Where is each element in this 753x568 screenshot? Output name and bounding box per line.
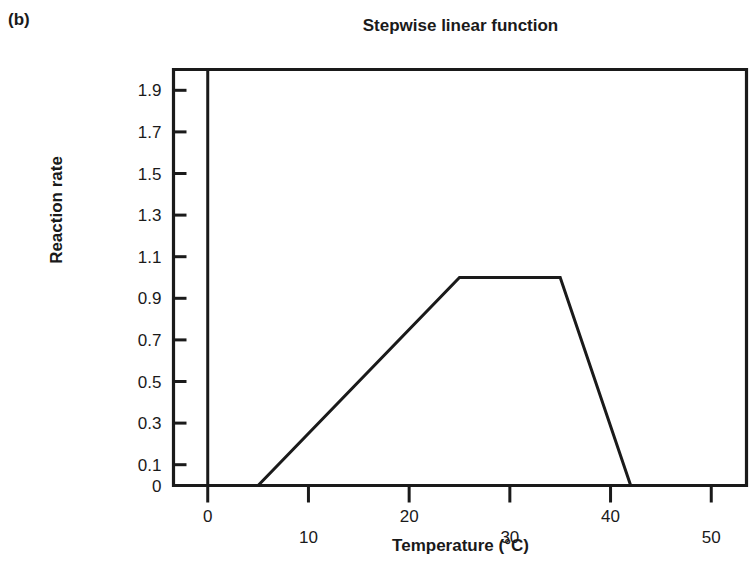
x-tick-label: 30 [500,528,519,547]
y-tick-label: 0 [152,477,161,496]
x-tick-label: 10 [299,528,318,547]
y-axis-tick-labels: 00.10.30.50.70.91.11.31.51.71.9 [138,81,162,495]
x-tick-label: 20 [400,507,419,526]
x-tick-label: 40 [601,507,620,526]
y-tick-label: 0.7 [138,331,162,350]
y-tick-label: 1.1 [138,248,162,267]
y-tick-label: 1.3 [138,206,162,225]
x-axis-tick-labels: 01020304050 [203,507,721,547]
x-tick-label: 0 [203,507,212,526]
y-tick-label: 0.5 [138,373,162,392]
y-axis-ticks [174,90,187,464]
y-tick-label: 1.9 [138,81,162,100]
y-tick-label: 0.3 [138,414,162,433]
plot-area: 00.10.30.50.70.91.11.31.51.71.9 01020304… [0,0,753,568]
x-axis-ticks [208,486,712,503]
y-tick-label: 1.5 [138,165,162,184]
y-tick-label: 0.1 [138,456,162,475]
data-series-line [174,278,747,486]
figure-panel: (b) Stepwise linear function Reaction ra… [0,0,753,568]
y-tick-label: 1.7 [138,123,162,142]
x-tick-label: 50 [702,528,721,547]
y-tick-label: 0.9 [138,289,162,308]
